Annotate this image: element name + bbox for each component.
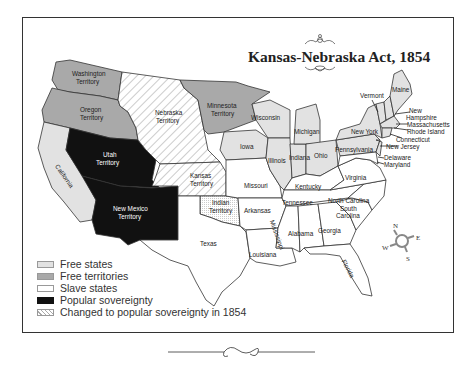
svg-text:South: South bbox=[340, 205, 357, 212]
svg-text:New Mexico: New Mexico bbox=[113, 205, 148, 212]
svg-text:Ohio: Ohio bbox=[314, 152, 328, 159]
region-florida bbox=[304, 244, 372, 296]
svg-text:Pennsylvania: Pennsylvania bbox=[335, 146, 373, 154]
legend-item-popular-sovereignty: Popular sovereignty bbox=[37, 294, 246, 306]
footer-ornament-icon bbox=[160, 340, 320, 364]
svg-text:Wisconsin: Wisconsin bbox=[251, 114, 281, 121]
svg-text:Maine: Maine bbox=[392, 86, 410, 93]
svg-text:Carolina: Carolina bbox=[336, 212, 360, 219]
svg-text:Territory: Territory bbox=[211, 110, 235, 118]
svg-text:Texas: Texas bbox=[200, 240, 217, 247]
svg-text:S: S bbox=[406, 255, 410, 263]
svg-text:W: W bbox=[382, 244, 389, 252]
svg-text:New: New bbox=[409, 107, 422, 114]
svg-text:Kansas: Kansas bbox=[190, 172, 211, 179]
svg-text:Virginia: Virginia bbox=[345, 174, 367, 182]
svg-text:Indian: Indian bbox=[212, 199, 230, 206]
svg-text:Territory: Territory bbox=[76, 78, 100, 86]
legend-swatch bbox=[37, 261, 54, 268]
svg-text:Territory: Territory bbox=[190, 180, 214, 188]
legend-item-slave-states: Slave states bbox=[37, 282, 246, 294]
svg-text:Indiana: Indiana bbox=[289, 154, 310, 161]
svg-text:Georgia: Georgia bbox=[318, 227, 341, 235]
region-indiana bbox=[290, 144, 306, 178]
region-connecticut bbox=[382, 128, 392, 138]
svg-text:Territory: Territory bbox=[118, 213, 142, 221]
legend-item-free-states: Free states bbox=[37, 258, 246, 270]
svg-text:Oregon: Oregon bbox=[80, 106, 102, 114]
svg-text:N: N bbox=[393, 222, 398, 230]
svg-text:Illinois: Illinois bbox=[268, 157, 286, 164]
map-legend: Free states Free territories Slave state… bbox=[37, 258, 246, 318]
svg-text:Nebraska: Nebraska bbox=[155, 109, 183, 116]
legend-item-free-territories: Free territories bbox=[37, 270, 246, 282]
svg-text:New Jersey: New Jersey bbox=[386, 143, 420, 151]
legend-swatch bbox=[37, 297, 54, 304]
legend-swatch bbox=[37, 285, 54, 292]
svg-text:Louisiana: Louisiana bbox=[249, 251, 277, 258]
svg-text:Maryland: Maryland bbox=[384, 161, 411, 169]
svg-text:New York: New York bbox=[351, 128, 379, 135]
svg-text:Delaware: Delaware bbox=[384, 154, 411, 161]
svg-text:Rhode Island: Rhode Island bbox=[407, 128, 445, 135]
svg-text:Territory: Territory bbox=[156, 117, 180, 125]
svg-text:Territory: Territory bbox=[80, 114, 104, 122]
svg-text:Tennessee: Tennessee bbox=[282, 199, 313, 206]
legend-swatch bbox=[37, 309, 54, 316]
legend-swatch bbox=[37, 273, 54, 280]
svg-text:E: E bbox=[416, 234, 420, 242]
legend-item-changed-1854: Changed to popular sovereignty in 1854 bbox=[37, 306, 246, 318]
svg-text:Utah: Utah bbox=[103, 151, 117, 158]
region-michigan bbox=[294, 104, 320, 144]
svg-text:Vermont: Vermont bbox=[360, 92, 384, 99]
svg-text:Massachusetts: Massachusetts bbox=[407, 121, 450, 128]
svg-text:Iowa: Iowa bbox=[240, 143, 254, 150]
svg-text:Connecticut: Connecticut bbox=[396, 136, 430, 143]
svg-text:Michigan: Michigan bbox=[294, 128, 320, 136]
compass-rose-icon: N E S W bbox=[382, 222, 420, 263]
svg-text:North Carolina: North Carolina bbox=[328, 197, 370, 204]
svg-text:Territory: Territory bbox=[209, 207, 233, 215]
map-title: Kansas-Nebraska Act, 1854 bbox=[248, 48, 430, 66]
svg-text:Missouri: Missouri bbox=[244, 182, 268, 189]
svg-text:Arkansas: Arkansas bbox=[244, 207, 271, 214]
svg-text:Kentucky: Kentucky bbox=[295, 183, 322, 191]
svg-text:Alabama: Alabama bbox=[288, 230, 314, 237]
svg-text:Washington: Washington bbox=[72, 70, 106, 78]
svg-text:Territory: Territory bbox=[96, 159, 120, 167]
svg-text:Minnesota: Minnesota bbox=[207, 102, 237, 109]
